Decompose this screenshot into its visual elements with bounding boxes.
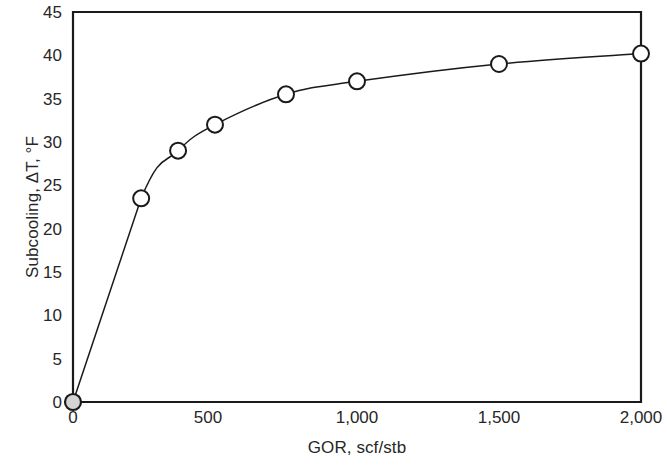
data-point-marker (207, 117, 223, 133)
data-point-marker (633, 46, 649, 62)
data-point-marker (278, 86, 294, 102)
series-line (73, 54, 641, 402)
chart-container: Subcooling, ΔT, °F GOR, scf/stb 45 40 35… (0, 0, 667, 469)
origin-point-marker (65, 394, 81, 410)
axis-frame (73, 12, 641, 402)
data-series-layer (65, 46, 649, 410)
data-point-marker (133, 190, 149, 206)
plot-area (0, 0, 667, 469)
data-point-marker (491, 56, 507, 72)
data-point-marker (349, 73, 365, 89)
data-point-marker (170, 143, 186, 159)
